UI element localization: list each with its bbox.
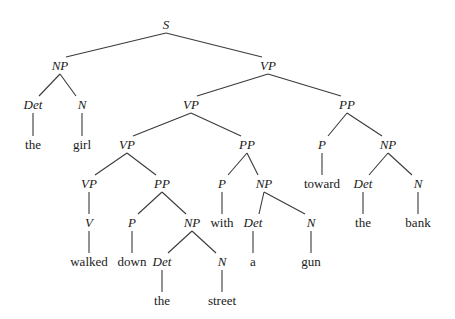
tree-edge	[228, 153, 247, 175]
tree-edge	[138, 192, 162, 214]
category-node: N	[413, 176, 424, 191]
tree-edge	[268, 74, 341, 96]
tree-edge	[369, 153, 388, 175]
tree-edge	[247, 153, 258, 175]
tree-edge	[166, 33, 262, 57]
word-leaf: bank	[405, 215, 431, 230]
category-node: Det	[353, 176, 373, 191]
tree-edge	[127, 153, 156, 175]
word-leaf: the	[154, 293, 170, 308]
category-node: NP	[379, 137, 397, 152]
category-node: PP	[338, 97, 355, 112]
category-node: P	[317, 137, 326, 152]
category-node: S	[163, 17, 170, 32]
category-node: N	[217, 254, 228, 269]
category-node: P	[217, 176, 226, 191]
category-node: VP	[260, 58, 276, 73]
tree-edge	[168, 231, 192, 253]
tree-edge	[133, 113, 191, 136]
category-node: Det	[152, 254, 172, 269]
category-node: NP	[255, 176, 273, 191]
category-node: VP	[81, 176, 97, 191]
word-leaf: with	[210, 215, 234, 230]
tree-edge	[95, 153, 127, 175]
tree-edge	[191, 113, 241, 136]
word-leaf: a	[250, 254, 256, 269]
category-node: PP	[238, 137, 255, 152]
tree-edge	[259, 192, 264, 214]
tree-labels: SNPDettheNgirlVPVPVPVPVwalkedPPPdownNPDe…	[23, 17, 432, 308]
tree-edge	[66, 33, 166, 57]
tree-edge	[162, 192, 186, 214]
word-leaf: walked	[70, 254, 108, 269]
category-node: VP	[183, 97, 199, 112]
word-leaf: toward	[304, 176, 341, 191]
category-node: V	[85, 215, 95, 230]
tree-edge	[347, 113, 382, 136]
tree-edge	[39, 74, 60, 96]
category-node: N	[77, 97, 88, 112]
tree-edge	[328, 113, 347, 136]
category-node: VP	[119, 137, 135, 152]
word-leaf: girl	[73, 137, 91, 152]
word-leaf: down	[118, 254, 147, 269]
category-node: PP	[153, 176, 170, 191]
category-node: N	[306, 215, 317, 230]
word-leaf: street	[208, 293, 237, 308]
parse-tree: SNPDettheNgirlVPVPVPVPVwalkedPPPdownNPDe…	[0, 0, 455, 319]
word-leaf: gun	[301, 254, 321, 269]
tree-edge	[192, 231, 216, 253]
word-leaf: the	[355, 215, 371, 230]
tree-edge	[197, 74, 268, 96]
category-node: P	[127, 215, 136, 230]
category-node: Det	[23, 97, 43, 112]
category-node: NP	[183, 215, 201, 230]
category-node: Det	[243, 215, 263, 230]
category-node: NP	[51, 58, 69, 73]
word-leaf: the	[25, 137, 41, 152]
tree-edge	[264, 192, 305, 214]
tree-edge	[60, 74, 76, 96]
tree-edge	[388, 153, 412, 175]
